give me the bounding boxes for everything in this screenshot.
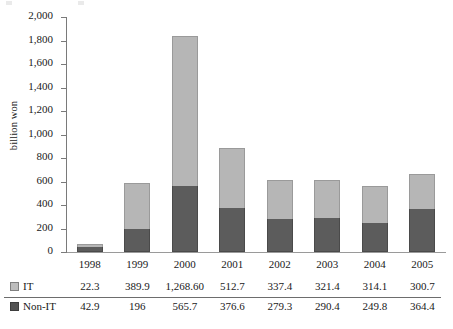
bar-segment-nonit[interactable] — [219, 208, 245, 252]
bar-segment-it[interactable] — [124, 183, 150, 229]
y-axis-tick-label: 1,000 — [9, 127, 53, 139]
y-axis-tick-label: 2,000 — [9, 9, 53, 21]
y-axis-tick: 400 — [61, 205, 67, 206]
bar-segment-it[interactable] — [314, 180, 340, 218]
table-cell-it: 300.7 — [394, 280, 450, 292]
y-axis-tick-label: 1,800 — [9, 33, 53, 45]
top-edge-artifact — [78, 1, 84, 5]
table-separator-rule — [4, 297, 441, 298]
y-axis-tick-label: 1,400 — [9, 80, 53, 92]
bar-segment-it[interactable] — [172, 36, 198, 185]
bar-segment-nonit[interactable] — [77, 247, 103, 252]
chart-figure: billion won 02004006008001,0001,2001,400… — [0, 0, 453, 329]
bar-segment-nonit[interactable] — [314, 218, 340, 252]
legend-swatch-nonit-icon — [10, 302, 19, 311]
legend-swatch-it-icon — [10, 282, 19, 291]
y-axis-tick: 1,800 — [61, 41, 67, 42]
y-axis-tick-label: 800 — [9, 150, 53, 162]
bar-segment-nonit[interactable] — [409, 209, 435, 252]
bar-group[interactable] — [172, 36, 198, 252]
bar-group[interactable] — [219, 148, 245, 252]
y-axis-tick-label: 400 — [9, 197, 53, 209]
plot-area: 02004006008001,0001,2001,4001,6001,8002,… — [66, 17, 446, 253]
bar-group[interactable] — [409, 174, 435, 252]
legend-key-it: IT — [10, 280, 33, 292]
y-axis-tick: 2,000 — [61, 17, 67, 18]
bar-segment-it[interactable] — [362, 186, 388, 223]
cutoff-caption-artifact — [22, 320, 422, 329]
bar-segment-nonit[interactable] — [267, 219, 293, 252]
bar-segment-nonit[interactable] — [124, 229, 150, 252]
y-axis-tick: 600 — [61, 182, 67, 183]
legend-label-nonit: Non-IT — [23, 300, 56, 312]
table-row-nonit: Non-IT 42.9196565.7376.6279.3290.4249.83… — [6, 299, 447, 315]
bar-segment-it[interactable] — [219, 148, 245, 208]
y-axis-tick-label: 0 — [9, 244, 53, 256]
table-cell-nonit: 364.4 — [394, 300, 450, 312]
y-axis-tick: 1,400 — [61, 88, 67, 89]
y-axis-tick: 800 — [61, 158, 67, 159]
top-edge-artifact — [6, 1, 12, 5]
table-row-it: IT 22.3389.91,268.60512.7337.4321.4314.1… — [6, 279, 447, 295]
bar-group[interactable] — [314, 180, 340, 252]
x-axis-label: 2005 — [394, 258, 450, 270]
x-axis-labels: 19981999200020012002200320042005 — [66, 258, 446, 274]
y-axis-tick: 1,200 — [61, 111, 67, 112]
bar-group[interactable] — [77, 244, 103, 252]
y-axis-tick: 200 — [61, 229, 67, 230]
y-axis-tick: 1,600 — [61, 64, 67, 65]
y-axis-tick: 1,000 — [61, 135, 67, 136]
y-axis-tick-label: 600 — [9, 174, 53, 186]
bar-group[interactable] — [267, 180, 293, 252]
bar-segment-nonit[interactable] — [172, 186, 198, 252]
y-axis-tick-label: 200 — [9, 221, 53, 233]
bar-segment-it[interactable] — [267, 180, 293, 220]
y-axis-tick-label: 1,600 — [9, 56, 53, 68]
legend-label-it: IT — [23, 280, 33, 292]
bar-segment-nonit[interactable] — [362, 223, 388, 252]
legend-key-nonit: Non-IT — [10, 300, 56, 312]
bar-segment-it[interactable] — [409, 174, 435, 209]
bar-group[interactable] — [362, 186, 388, 252]
y-axis-tick-label: 1,200 — [9, 103, 53, 115]
y-axis-tick: 0 — [61, 252, 67, 253]
bar-group[interactable] — [124, 183, 150, 252]
x-axis-line — [66, 252, 446, 253]
